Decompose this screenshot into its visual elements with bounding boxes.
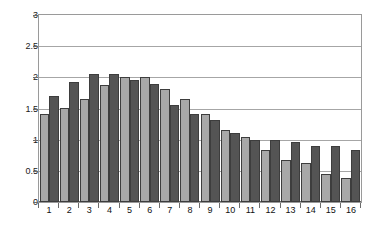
bar-series-1-3 — [80, 99, 89, 202]
x-axis-tick-label: 12 — [265, 206, 275, 215]
x-axis-tick-mark — [58, 203, 59, 208]
bar-group — [301, 15, 320, 202]
x-axis-tick-label: 14 — [306, 206, 316, 215]
x-axis-tick-mark — [38, 203, 39, 208]
y-axis-tick-mark — [33, 140, 38, 141]
x-axis-tick-label: 7 — [167, 206, 172, 215]
bar-series-2-6 — [150, 84, 159, 202]
x-axis-tick-label: 3 — [87, 206, 92, 215]
bar-group — [140, 15, 159, 202]
x-axis-tick-mark — [98, 203, 99, 208]
y-axis-tick-mark — [33, 15, 38, 16]
bar-series-1-11 — [241, 137, 250, 202]
bar-series-2-7 — [170, 105, 179, 202]
bar-series-1-5 — [120, 77, 129, 202]
bar-series-2-12 — [270, 140, 279, 202]
x-axis-tick-label: 8 — [187, 206, 192, 215]
x-axis-tick-mark — [360, 203, 361, 208]
bar-group — [80, 15, 99, 202]
bar-group — [281, 15, 300, 202]
y-axis-tick-mark — [33, 77, 38, 78]
x-axis-tick-mark — [300, 203, 301, 208]
x-axis-tick-mark — [119, 203, 120, 208]
x-axis-tick-label: 13 — [286, 206, 296, 215]
bar-series-1-13 — [281, 160, 290, 202]
x-axis-tick-label: 6 — [147, 206, 152, 215]
bar-group — [341, 15, 360, 202]
x-axis-tick-mark — [78, 203, 79, 208]
bar-series-2-15 — [331, 146, 340, 202]
bar-series-1-6 — [140, 77, 149, 202]
bars-layer — [39, 15, 361, 202]
x-axis-tick-label: 9 — [208, 206, 213, 215]
x-axis-tick-mark — [139, 203, 140, 208]
bar-group — [100, 15, 119, 202]
x-axis-tick-mark — [340, 203, 341, 208]
x-axis-tick-label: 15 — [326, 206, 336, 215]
bar-group — [241, 15, 260, 202]
x-axis-tick-mark — [159, 203, 160, 208]
bar-series-1-14 — [301, 163, 310, 202]
bar-series-1-4 — [100, 85, 109, 202]
x-axis-tick-mark — [259, 203, 260, 208]
bar-group — [160, 15, 179, 202]
bar-series-2-14 — [311, 146, 320, 202]
bar-chart: 00.511.522.53 12345678910111213141516 — [0, 0, 383, 235]
x-axis-tick-label: 4 — [107, 206, 112, 215]
x-axis-tick-label: 10 — [225, 206, 235, 215]
bar-group — [60, 15, 79, 202]
bar-group — [180, 15, 199, 202]
bar-group — [261, 15, 280, 202]
y-axis-tick-mark — [33, 109, 38, 110]
bar-group — [221, 15, 240, 202]
x-axis-tick-mark — [199, 203, 200, 208]
y-axis-tick-mark — [33, 171, 38, 172]
bar-series-1-2 — [60, 108, 69, 202]
bar-series-1-7 — [160, 89, 169, 202]
bar-series-2-16 — [351, 150, 360, 202]
bar-series-1-1 — [40, 114, 49, 203]
x-axis-tick-mark — [239, 203, 240, 208]
x-axis-tick-label: 2 — [67, 206, 72, 215]
bar-group — [120, 15, 139, 202]
x-axis-tick-label: 5 — [127, 206, 132, 215]
bar-series-2-10 — [230, 133, 239, 202]
bar-series-2-1 — [49, 96, 58, 202]
bar-series-2-2 — [69, 82, 78, 202]
bar-series-2-13 — [291, 142, 300, 202]
bar-series-2-3 — [89, 74, 98, 202]
x-axis-tick-label: 11 — [246, 206, 255, 215]
bar-series-2-9 — [210, 120, 219, 202]
x-axis-tick-mark — [320, 203, 321, 208]
x-axis-tick-mark — [280, 203, 281, 208]
x-axis-tick-label: 16 — [346, 206, 356, 215]
bar-series-1-8 — [180, 99, 189, 202]
bar-series-1-9 — [201, 114, 210, 202]
bar-group — [201, 15, 220, 202]
bar-series-1-12 — [261, 150, 270, 202]
bar-series-2-5 — [130, 80, 139, 202]
bar-group — [321, 15, 340, 202]
bar-series-1-16 — [341, 178, 350, 202]
bar-series-1-10 — [221, 130, 230, 202]
bar-series-1-15 — [321, 174, 330, 202]
bar-series-2-8 — [190, 114, 199, 202]
bar-series-2-11 — [250, 140, 259, 202]
x-axis-tick-mark — [219, 203, 220, 208]
bar-group — [40, 15, 59, 202]
bar-series-2-4 — [109, 74, 118, 202]
x-axis-tick-label: 1 — [47, 206, 52, 215]
y-axis-tick-mark — [33, 46, 38, 47]
x-axis-tick-mark — [179, 203, 180, 208]
